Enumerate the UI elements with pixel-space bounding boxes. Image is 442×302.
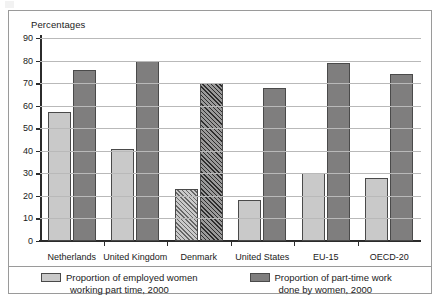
x-axis-category-label: United States: [235, 252, 289, 262]
y-axis-tick: [36, 106, 40, 107]
bar: [200, 83, 223, 241]
gridline: [40, 106, 421, 107]
gridline: [40, 61, 421, 62]
legend-swatch-light: [41, 273, 61, 282]
gridline: [40, 173, 421, 174]
legend-label-part-time-work: Proportion of part-time work done by wom…: [275, 272, 392, 295]
x-axis-category-label: Denmark: [180, 252, 217, 262]
plot-area: Percentages 0102030405060708090 Netherla…: [9, 11, 431, 248]
legend-item-part-time-work: Proportion of part-time work done by wom…: [250, 272, 392, 295]
y-axis-tick: [36, 241, 40, 242]
gridline: [40, 83, 421, 84]
bar: [327, 63, 350, 241]
x-axis-category-label: United Kingdom: [103, 252, 167, 262]
x-axis-tick: [294, 242, 295, 246]
y-axis-tick-label: 10: [23, 213, 33, 223]
y-axis-tick: [36, 151, 40, 152]
gridline: [40, 128, 421, 129]
y-axis-tick: [36, 173, 40, 174]
plot-canvas: 0102030405060708090: [40, 38, 421, 242]
bar: [175, 189, 198, 241]
x-axis-tick: [167, 242, 168, 246]
x-axis-tick: [104, 242, 105, 246]
y-axis-tick: [36, 218, 40, 219]
y-axis-tick: [36, 61, 40, 62]
y-axis-tick: [36, 38, 40, 39]
y-axis-tick-label: 80: [23, 56, 33, 66]
x-axis-category-label: Netherlands: [47, 252, 96, 262]
y-axis-tick-label: 50: [23, 123, 33, 133]
bar: [390, 74, 413, 241]
gridline: [40, 196, 421, 197]
chart-legend: Proportion of employed women working par…: [9, 266, 431, 295]
x-axis-tick: [358, 242, 359, 246]
y-axis-tick-label: 30: [23, 168, 33, 178]
y-axis-tick-label: 0: [28, 236, 33, 246]
bar: [48, 112, 71, 241]
y-axis-tick-label: 90: [23, 33, 33, 43]
y-axis-tick: [36, 196, 40, 197]
bar: [111, 149, 134, 241]
bar: [365, 178, 388, 241]
y-axis-tick: [36, 128, 40, 129]
bar: [238, 200, 261, 241]
bar: [73, 70, 96, 241]
gridline: [40, 151, 421, 152]
legend-label-employed-women: Proportion of employed women working par…: [66, 272, 198, 295]
legend-swatch-dark: [250, 273, 270, 282]
chart-figure: Percentages 0102030405060708090 Netherla…: [8, 10, 432, 294]
y-axis-tick: [36, 83, 40, 84]
legend-item-employed-women: Proportion of employed women working par…: [41, 272, 198, 295]
gridline: [40, 38, 421, 39]
y-axis-tick-label: 70: [23, 78, 33, 88]
y-axis-tick-label: 20: [23, 191, 33, 201]
bar: [302, 173, 325, 241]
x-axis-category-label: OECD-20: [370, 252, 409, 262]
x-axis-category-label: EU-15: [313, 252, 339, 262]
y-axis-tick-label: 60: [23, 101, 33, 111]
y-axis-tick-label: 40: [23, 146, 33, 156]
bars-layer: [40, 38, 421, 242]
y-axis-title: Percentages: [31, 19, 85, 30]
gridline: [40, 218, 421, 219]
x-axis-tick: [231, 242, 232, 246]
scan-artifact: [5, 1, 14, 8]
